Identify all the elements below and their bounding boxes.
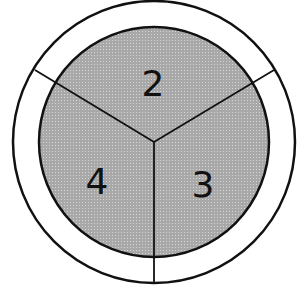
section-top-label: 2 <box>142 63 165 104</box>
section-right-label: 3 <box>192 164 215 205</box>
section-left-label: 4 <box>86 161 109 202</box>
divided-circle-diagram: 2 4 3 <box>0 0 301 296</box>
